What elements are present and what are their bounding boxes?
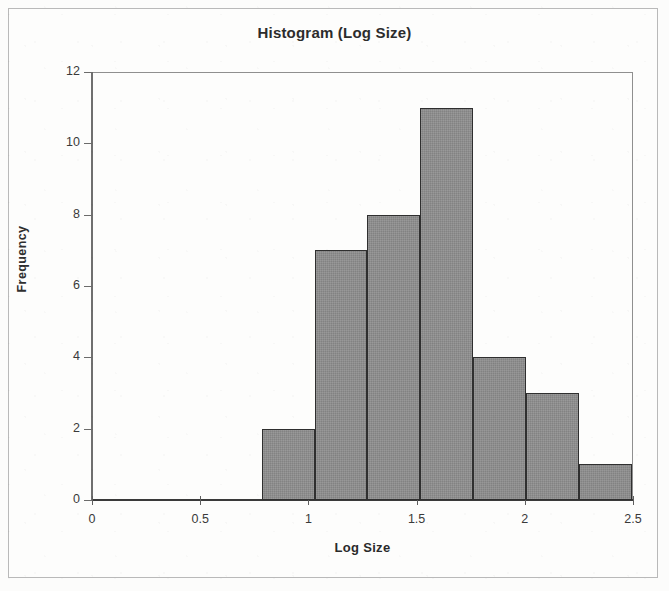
x-tick-label: 0.5 (170, 512, 230, 526)
y-tick-label: 6 (46, 278, 80, 292)
x-tick-label: 2.5 (603, 512, 663, 526)
x-tick-label: 1 (278, 512, 338, 526)
histogram-bar (526, 393, 579, 500)
y-axis-title: Frequency (15, 199, 29, 319)
histogram-figure: Histogram (Log Size) 024681012 00.511.52… (0, 0, 669, 591)
y-tick-label: 8 (46, 207, 80, 221)
chart-title: Histogram (Log Size) (0, 24, 669, 41)
x-tick-label: 0 (62, 512, 122, 526)
bars-container (92, 72, 633, 500)
y-tick-label: 12 (46, 64, 80, 78)
x-tick-label: 2 (495, 512, 555, 526)
histogram-bar (315, 250, 368, 500)
y-tick-label: 4 (46, 349, 80, 363)
y-tick-label: 2 (46, 421, 80, 435)
y-tick-label: 10 (46, 135, 80, 149)
y-tick-label: 0 (46, 492, 80, 506)
x-axis-title: Log Size (92, 540, 633, 555)
x-tick (633, 496, 634, 505)
histogram-bar (420, 108, 473, 500)
histogram-bar (579, 464, 632, 500)
histogram-bar (367, 215, 420, 500)
histogram-bar (473, 357, 526, 500)
x-tick-label: 1.5 (387, 512, 447, 526)
histogram-bar (262, 429, 315, 500)
